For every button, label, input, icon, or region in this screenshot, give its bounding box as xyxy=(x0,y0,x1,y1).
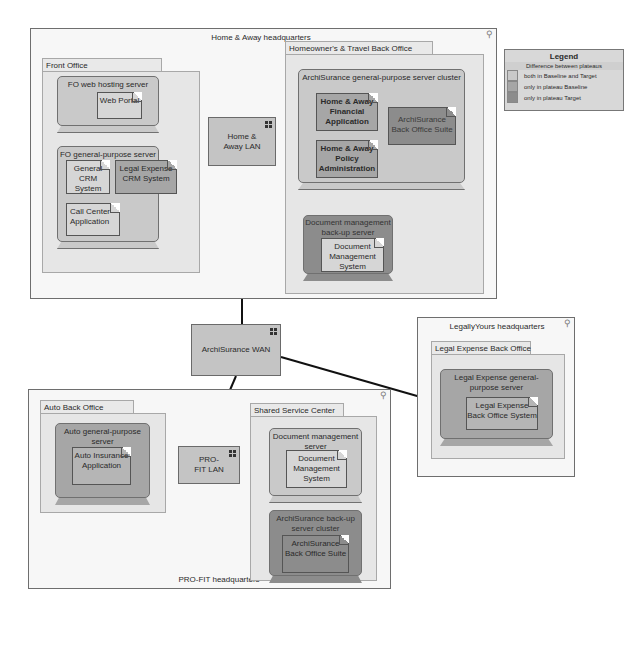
homeowners-back-office-tab[interactable]: Homeowner's & Travel Back Office xyxy=(285,41,433,54)
auto-back-office-tab[interactable]: Auto Back Office xyxy=(40,400,134,413)
archisurance-back-office-suite-artifact[interactable]: ArchiSurance Back Office Suite xyxy=(388,107,456,145)
legend-label: both in Baseline and Target xyxy=(524,73,597,79)
legal-expense-server-label: Legal Expense general-purpose server xyxy=(441,373,552,393)
home-away-lan[interactable]: Home & Away LAN xyxy=(208,117,276,166)
swatch-target xyxy=(507,92,518,103)
legend: Legend Difference between plateaus both … xyxy=(504,49,624,111)
location-pin-icon: ⚲ xyxy=(380,390,387,400)
legend-item-target: only in plateau Target xyxy=(505,92,623,103)
legend-title: Legend xyxy=(505,52,623,62)
auto-server-label: Auto general-purpose server xyxy=(56,427,149,447)
swatch-both xyxy=(507,70,518,81)
legal-expense-back-office-system-artifact[interactable]: Legal Expense Back Office System xyxy=(466,397,538,430)
document-management-server-label: Document management server xyxy=(270,432,361,452)
location-pin-icon: ⚲ xyxy=(486,29,493,39)
shared-service-center-tab[interactable]: Shared Service Center xyxy=(250,403,344,416)
server-base xyxy=(57,242,159,249)
wan-label: ArchiSurance WAN xyxy=(202,345,271,355)
network-icon xyxy=(270,328,277,335)
server-base xyxy=(57,126,159,133)
swatch-baseline xyxy=(507,81,518,92)
legend-item-both: both in Baseline and Target xyxy=(505,70,623,81)
document-management-artifact[interactable]: Document Management System xyxy=(321,238,384,272)
auto-insurance-application-artifact[interactable]: Auto Insurance Application xyxy=(72,447,131,485)
profit-lan-label: PRO-FIT LAN xyxy=(194,455,224,475)
server-base xyxy=(440,439,553,446)
document-management-system-artifact[interactable]: Document Management System xyxy=(286,450,347,488)
legallyyours-title: LegallyYours headquarters xyxy=(438,322,556,332)
financial-application-artifact[interactable]: Home & Away Financial Application xyxy=(316,93,378,131)
home-away-lan-label: Home & Away LAN xyxy=(222,132,262,152)
call-center-artifact[interactable]: Call Center Application xyxy=(66,203,120,236)
document-backup-server-label: Document management back-up server xyxy=(304,218,392,238)
policy-administration-artifact[interactable]: Home & Away Policy Administration xyxy=(316,140,378,178)
legal-expense-back-office-tab[interactable]: Legal Expense Back Office xyxy=(431,341,531,354)
fo-general-purpose-server-label: FO general-purpose server xyxy=(58,150,158,160)
server-base xyxy=(55,498,150,505)
server-base xyxy=(269,576,362,583)
server-base xyxy=(298,183,465,190)
general-crm-artifact[interactable]: General CRM System xyxy=(66,160,110,194)
legal-expense-crm-artifact[interactable]: Legal Expense CRM System xyxy=(115,160,177,194)
network-icon xyxy=(229,450,236,457)
location-pin-icon: ⚲ xyxy=(564,318,571,328)
legend-item-baseline: only in plateau Baseline xyxy=(505,81,623,92)
legend-subtitle: Difference between plateaus xyxy=(505,62,623,70)
legend-label: only in plateau Target xyxy=(524,95,581,101)
web-portal-artifact[interactable]: Web Portal xyxy=(97,92,142,119)
archisurance-wan[interactable]: ArchiSurance WAN xyxy=(191,324,281,376)
server-base xyxy=(303,274,393,281)
cluster-label: ArchiSurance general-purpose server clus… xyxy=(299,73,464,83)
archisurance-back-office-suite-backup-artifact[interactable]: ArchiSurance Back Office Suite xyxy=(282,535,349,573)
backup-cluster-label: ArchiSurance back-up server cluster xyxy=(270,514,361,534)
server-base xyxy=(269,496,362,503)
front-office-tab[interactable]: Front Office xyxy=(42,58,162,71)
network-icon xyxy=(265,121,272,128)
legend-label: only in plateau Baseline xyxy=(524,84,587,90)
profit-lan[interactable]: PRO-FIT LAN xyxy=(178,446,240,484)
fo-web-hosting-server-label: FO web hosting server xyxy=(58,80,158,90)
